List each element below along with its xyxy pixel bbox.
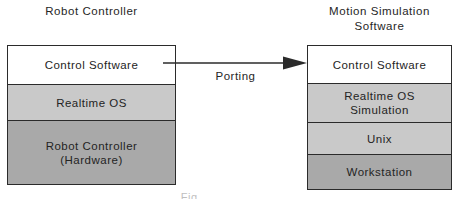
right-stack-title: Motion Simulation Software (307, 4, 452, 34)
layer-unix: Unix (308, 123, 451, 156)
layer-control-software-left: Control Software (8, 46, 175, 85)
layer-realtime-os: Realtime OS (8, 85, 175, 122)
layer-realtime-os-simulation: Realtime OS Simulation (308, 84, 451, 122)
diagram-canvas: Robot Controller Control Software Realti… (0, 0, 462, 199)
layer-workstation: Workstation (308, 155, 451, 189)
figure-caption: Fig. (131, 191, 251, 199)
left-stack-title: Robot Controller (7, 4, 176, 19)
layer-control-software-right: Control Software (308, 46, 451, 84)
porting-label: Porting (163, 70, 308, 82)
porting-arrow (163, 56, 308, 70)
motion-simulation-stack: Control Software Realtime OS Simulation … (307, 45, 452, 190)
robot-controller-stack: Control Software Realtime OS Robot Contr… (7, 45, 176, 185)
layer-robot-controller-hardware: Robot Controller (Hardware) (8, 121, 175, 184)
